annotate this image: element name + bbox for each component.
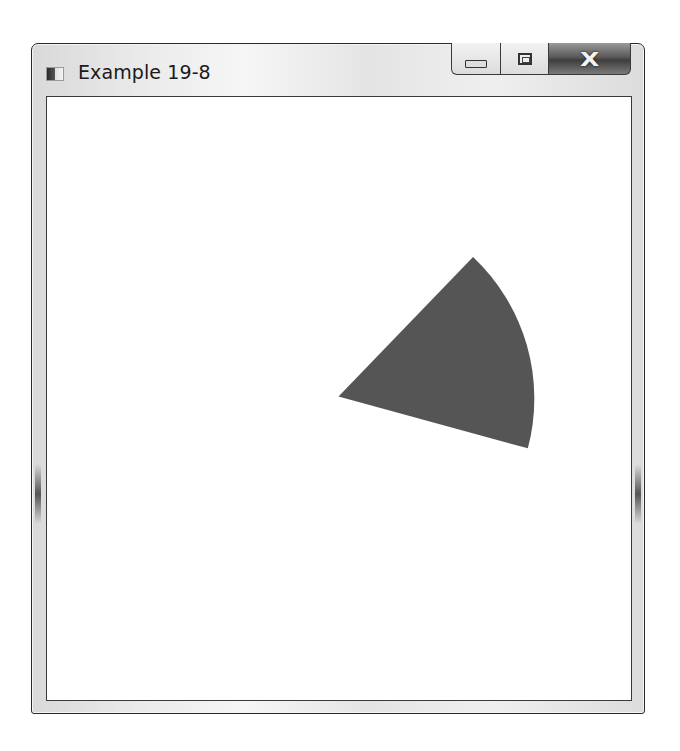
minimize-button[interactable]: [451, 43, 501, 75]
app-window-icon[interactable]: [46, 67, 64, 81]
minimize-icon: [465, 60, 487, 68]
close-button[interactable]: X: [549, 43, 631, 75]
application-window: Example 19-8 X: [31, 43, 645, 714]
maximize-button[interactable]: [501, 43, 549, 75]
window-controls: X: [451, 43, 631, 77]
maximize-icon: [518, 53, 532, 65]
window-title: Example 19-8: [78, 61, 211, 83]
window-frame-left-highlight: [35, 464, 41, 524]
cropped-caption-text: [0, 0, 680, 4]
close-icon: X: [580, 47, 599, 71]
title-bar[interactable]: Example 19-8 X: [32, 44, 644, 96]
pie-wedge-shape: [339, 257, 535, 448]
window-frame-right-highlight: [635, 464, 641, 524]
drawing-canvas: [47, 97, 631, 700]
client-area: [46, 96, 632, 701]
